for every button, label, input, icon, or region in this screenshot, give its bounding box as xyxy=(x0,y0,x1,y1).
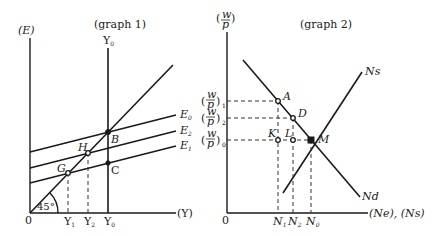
svg-text:): ) xyxy=(216,95,220,108)
y0-tick: Y0 xyxy=(103,215,115,228)
n2-tick: N2 xyxy=(287,215,302,228)
point-g-label: G xyxy=(57,162,66,175)
angle-label: 45° xyxy=(37,201,55,212)
point-h-label: H xyxy=(77,141,88,154)
graph-1-title: (graph 1) xyxy=(94,18,146,31)
point-m-label: M xyxy=(317,133,330,146)
svg-text:1: 1 xyxy=(222,102,226,109)
point-d xyxy=(291,116,296,121)
svg-text:(: ( xyxy=(201,134,205,147)
point-k xyxy=(276,138,281,143)
graph-2-title: (graph 2) xyxy=(300,18,352,31)
svg-text:0: 0 xyxy=(222,141,226,148)
wp-axis-label: ( w p ) xyxy=(216,8,235,31)
point-c-label: C xyxy=(111,164,119,177)
svg-text:(: ( xyxy=(216,12,220,25)
graph-2-origin: 0 xyxy=(222,214,229,227)
wp0-tick: ( w p ) 0 xyxy=(201,127,226,150)
diagram-canvas: (graph 1) (E) (Y) 0 Y0 45° E0 E2 E1 B H … xyxy=(0,0,440,236)
e0-line xyxy=(30,115,176,152)
45-degree-line xyxy=(30,65,173,213)
point-c xyxy=(106,161,110,165)
point-a xyxy=(276,99,281,104)
svg-text:(: ( xyxy=(201,112,205,125)
svg-text:p: p xyxy=(207,137,214,150)
n0-tick: N0 xyxy=(305,215,320,228)
point-g xyxy=(66,171,71,176)
point-m xyxy=(308,137,314,143)
point-b xyxy=(106,130,111,135)
svg-text:): ) xyxy=(216,134,220,147)
point-l-label: L xyxy=(284,127,292,140)
ns-label: Ns xyxy=(364,65,381,78)
n-axis-label: (Ne), (Ns) xyxy=(369,207,425,220)
e1-label: E1 xyxy=(179,139,192,152)
svg-text:2: 2 xyxy=(222,119,226,126)
graph-1: (graph 1) (E) (Y) 0 Y0 45° E0 E2 E1 B H … xyxy=(18,18,193,228)
nd-label: Nd xyxy=(361,190,379,203)
svg-text:(: ( xyxy=(201,95,205,108)
e-axis-label: (E) xyxy=(18,24,35,37)
graph-1-origin: 0 xyxy=(25,214,32,227)
y1-tick: Y1 xyxy=(63,215,75,228)
nd-demand-line xyxy=(243,60,360,197)
svg-text:): ) xyxy=(231,12,235,25)
point-a-label: A xyxy=(282,90,291,103)
n1-tick: N1 xyxy=(272,215,286,228)
y-axis-label: (Y) xyxy=(177,207,193,220)
y2-tick: Y2 xyxy=(83,215,95,228)
y0-vertical-label: Y0 xyxy=(102,34,114,47)
point-d-label: D xyxy=(297,107,307,120)
e2-label: E2 xyxy=(179,124,192,137)
svg-text:p: p xyxy=(222,18,229,31)
e0-label: E0 xyxy=(179,108,192,121)
point-k-label: K xyxy=(267,127,277,140)
graph-2: (graph 2) ( w p ) (Ne), (Ns) 0 ( w p ) 1… xyxy=(201,8,425,228)
point-b-label: B xyxy=(110,133,119,146)
svg-text:): ) xyxy=(216,112,220,125)
e1-line xyxy=(30,146,176,183)
